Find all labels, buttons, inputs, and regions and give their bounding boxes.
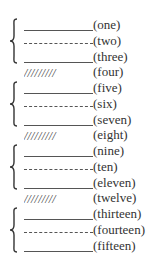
item-label: (eleven) xyxy=(93,176,136,190)
list-item-seven: (seven) xyxy=(24,111,131,127)
separator-label: (eight) xyxy=(93,128,128,142)
slash-pattern: ///////// xyxy=(24,193,93,205)
list-item-thirteen: (thirteen) xyxy=(24,205,141,221)
dashed-leader-line xyxy=(24,164,93,174)
brace-group-2 xyxy=(9,81,19,127)
list-item-nine: (nine) xyxy=(24,142,124,158)
item-label: (fifteen) xyxy=(93,239,136,253)
item-label: (six) xyxy=(93,97,117,111)
list-item-three: (three) xyxy=(24,48,128,64)
item-label: (two) xyxy=(93,34,121,48)
brace-group-1 xyxy=(9,18,19,64)
list-item-two: (two) xyxy=(24,32,121,48)
list-item-six: (six) xyxy=(24,95,117,111)
list-item-fifteen: (fifteen) xyxy=(24,237,136,253)
dashed-leader-line xyxy=(24,227,93,237)
separator-twelve: /////////(twelve) xyxy=(24,189,136,205)
item-label: (thirteen) xyxy=(93,207,141,221)
slash-pattern: ///////// xyxy=(24,130,93,142)
list-item-ten: (ten) xyxy=(24,158,118,174)
solid-leader-line xyxy=(24,85,93,95)
solid-leader-line xyxy=(24,211,93,221)
dashed-leader-line xyxy=(24,101,93,111)
list-item-five: (five) xyxy=(24,79,122,95)
brace-group-3 xyxy=(9,144,19,190)
separator-label: (four) xyxy=(93,65,123,79)
item-label: (fourteen) xyxy=(93,223,145,237)
list-item-eleven: (eleven) xyxy=(24,174,136,190)
list-item-one: (one) xyxy=(24,16,120,32)
solid-leader-line xyxy=(24,148,93,158)
solid-leader-line xyxy=(24,22,93,32)
item-label: (three) xyxy=(93,50,128,64)
item-label: (ten) xyxy=(93,160,118,174)
separator-four: /////////(four) xyxy=(24,63,123,79)
brace-group-4 xyxy=(9,207,19,253)
item-label: (one) xyxy=(93,18,120,32)
slash-pattern: ///////// xyxy=(24,67,93,79)
list-item-fourteen: (fourteen) xyxy=(24,221,145,237)
solid-leader-line xyxy=(24,243,93,253)
dashed-leader-line xyxy=(24,38,93,48)
separator-eight: /////////(eight) xyxy=(24,126,128,142)
item-label: (five) xyxy=(93,81,122,95)
item-label: (nine) xyxy=(93,144,124,158)
separator-label: (twelve) xyxy=(93,191,136,205)
item-label: (seven) xyxy=(93,113,131,127)
